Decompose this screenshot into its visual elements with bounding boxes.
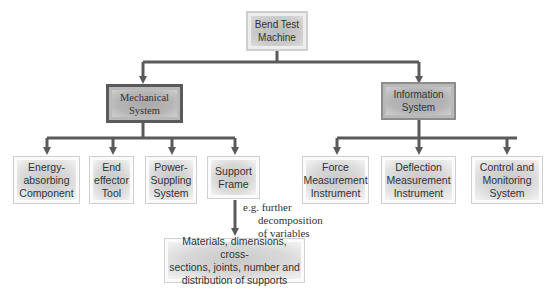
- root-node-bend-test-machine: Bend TestMachine: [246, 11, 308, 51]
- node-mechanical-system: MechanicalSystem: [106, 84, 183, 123]
- node-support-frame: Support Frame: [207, 156, 260, 199]
- node-power-supplying-system: Power- Suppling System: [145, 156, 197, 204]
- node-force-measurement-instrument: Force Measurement Instrument: [302, 156, 369, 204]
- node-energy-absorbing-component: Energy- absorbing Component: [13, 156, 80, 204]
- node-deflection-measurement-instrument: Deflection Measurement Instrument: [381, 156, 456, 204]
- node-control-and-monitoring-system: Control and Monitoring System: [471, 156, 543, 204]
- node-information-system: InformationSystem: [381, 82, 456, 120]
- node-support-frame-variables: Materials, dimensions, cross- sections, …: [164, 238, 305, 283]
- node-end-effector-tool: End effector Tool: [89, 156, 134, 204]
